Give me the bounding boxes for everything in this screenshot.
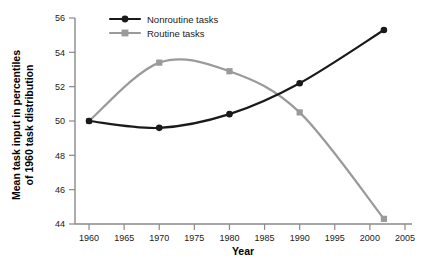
y-tick-label: 54 <box>55 48 65 58</box>
x-tick-label: 1990 <box>290 233 310 243</box>
line-chart: Mean task input in percentiles of 1960 t… <box>0 0 428 265</box>
y-tick-label: 52 <box>55 82 65 92</box>
x-tick-label: 1970 <box>149 233 169 243</box>
series-routine-tasks <box>86 59 387 222</box>
x-tick-label: 2000 <box>360 233 380 243</box>
x-tick-label: 1965 <box>114 233 134 243</box>
legend-label-routine: Routine tasks <box>147 28 205 39</box>
y-tick-label: 46 <box>55 185 65 195</box>
legend-label-nonroutine: Nonroutine tasks <box>147 14 219 25</box>
x-tick-label: 1980 <box>219 233 239 243</box>
data-point <box>297 109 303 115</box>
x-axis-ticks: 1960196519701975198019851990199520002005 <box>79 224 415 243</box>
data-point <box>86 118 93 125</box>
x-tick-label: 1995 <box>325 233 345 243</box>
series-line-routine-tasks <box>89 59 384 219</box>
series-nonroutine-tasks <box>86 27 387 131</box>
legend-entry-nonroutine[interactable]: Nonroutine tasks <box>110 14 219 25</box>
legend-entry-routine[interactable]: Routine tasks <box>110 28 205 39</box>
x-tick-label: 1985 <box>255 233 275 243</box>
x-axis-title: Year <box>232 245 254 257</box>
data-point <box>156 125 163 132</box>
chart-container: Mean task input in percentiles of 1960 t… <box>0 0 428 265</box>
legend: Nonroutine tasks Routine tasks <box>110 14 219 39</box>
y-tick-label: 50 <box>55 116 65 126</box>
y-tick-label: 48 <box>55 151 65 161</box>
y-axis-title: Mean task input in percentiles of 1960 t… <box>10 50 35 200</box>
data-point <box>226 68 232 74</box>
series-layer <box>86 27 387 222</box>
data-point <box>296 80 303 87</box>
data-point <box>381 216 387 222</box>
y-axis-title-line1: Mean task input in percentiles <box>10 50 22 200</box>
x-tick-label: 2005 <box>395 233 415 243</box>
data-point <box>226 111 233 118</box>
data-point <box>156 60 162 66</box>
y-axis-ticks: 44464850525456 <box>55 13 75 229</box>
y-tick-label: 44 <box>55 219 65 229</box>
data-point <box>381 27 388 34</box>
y-tick-label: 56 <box>55 13 65 23</box>
x-tick-label: 1960 <box>79 233 99 243</box>
y-axis-title-line2: of 1960 task distribution <box>23 65 35 186</box>
x-tick-label: 1975 <box>184 233 204 243</box>
